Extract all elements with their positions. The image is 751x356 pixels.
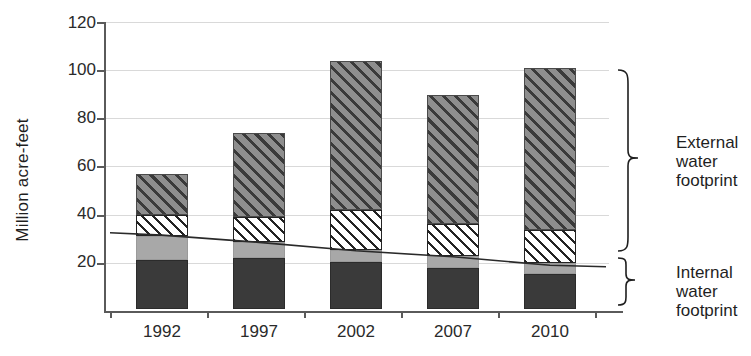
y-axis-title: Million acre-feet [10,30,36,330]
annotation-external: External water footprint [676,133,738,190]
x-axis-label-2002: 2002 [306,322,406,342]
plot-area: 1992 1997 2002 2007 2010 [104,22,609,313]
y-tick-label-80: 80 [46,108,96,128]
x-tick-mark-2 [304,311,306,318]
x-tick-mark-3 [401,311,403,318]
annotation-external-line3: footprint [676,171,738,190]
annotation-internal-line1: Internal [676,263,737,282]
y-tick-label-100: 100 [46,60,96,80]
x-tick-mark-0 [110,311,112,318]
brace-internal [618,258,635,305]
trend-line [104,22,609,313]
y-tick-label-20: 20 [46,252,96,272]
x-axis-label-2007: 2007 [403,322,503,342]
x-axis-label-1992: 1992 [112,322,212,342]
x-tick-mark-1 [207,311,209,318]
y-tick-label-40: 40 [46,204,96,224]
x-axis-label-2010: 2010 [500,322,600,342]
brace-external [618,70,638,251]
x-tick-mark-5 [595,311,597,318]
y-tick-label-group: 120 100 80 60 40 20 [46,22,96,313]
x-axis-label-1997: 1997 [209,322,309,342]
y-tick-label-60: 60 [46,156,96,176]
chart-container: Million acre-feet 120 100 80 60 40 20 [0,0,751,356]
annotation-internal-line3: footprint [676,301,737,320]
annotation-external-line1: External [676,133,738,152]
annotation-internal-line2: water [676,282,737,301]
y-axis-title-wrap: Million acre-feet [4,30,30,320]
annotation-external-line2: water [676,152,738,171]
y-tick-label-120: 120 [46,13,96,33]
annotation-internal: Internal water footprint [676,263,737,320]
x-tick-mark-4 [498,311,500,318]
